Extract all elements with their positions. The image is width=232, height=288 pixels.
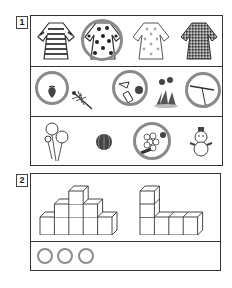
l-shaped-blocks-figure	[131, 174, 217, 241]
strawberry-icon[interactable]	[35, 67, 69, 116]
polka-dot-dress-icon[interactable]	[79, 16, 127, 66]
dandelion-icon[interactable]	[149, 67, 183, 116]
answer-row	[31, 241, 220, 270]
row-summer-items	[31, 66, 222, 116]
dragonfly-icon[interactable]	[67, 83, 97, 116]
spray-bottle-and-ball-icon[interactable]	[109, 67, 149, 116]
question-number-1: 1	[16, 16, 28, 29]
bamboo-dragonfly-toy-icon[interactable]	[183, 67, 221, 116]
answer-circle-1	[37, 248, 53, 264]
answer-circle-3	[78, 248, 94, 264]
stepped-block-pyramid-figure	[35, 174, 125, 241]
question-2-panel	[30, 173, 221, 271]
snowman-icon[interactable]	[181, 117, 221, 165]
question-1-panel	[30, 15, 223, 166]
row-seasonal-items	[31, 116, 222, 165]
question-number-2: 2	[16, 174, 28, 187]
cosmos-flowers-icon[interactable]	[37, 117, 77, 165]
grapes-and-chestnuts-icon[interactable]	[131, 117, 175, 165]
row-dresses	[31, 16, 222, 66]
figures-row	[31, 174, 220, 241]
striped-dress-icon[interactable]	[33, 16, 79, 66]
watermelon-icon[interactable]	[89, 117, 119, 165]
floral-dotted-dress-icon[interactable]	[127, 16, 175, 66]
answer-circle-2	[57, 248, 73, 264]
checkered-dress-icon[interactable]	[175, 16, 222, 66]
